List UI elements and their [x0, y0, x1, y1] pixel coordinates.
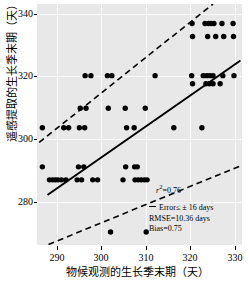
- y-tick-label: 320: [5, 70, 33, 81]
- y-tick-label: 300: [5, 133, 33, 144]
- x-tick-mark: [235, 246, 236, 250]
- y-tick-340: 340: [0, 14, 33, 15]
- data-point: [83, 106, 88, 111]
- data-point: [61, 125, 66, 130]
- x-tick-label: 290: [41, 252, 73, 263]
- data-point: [120, 177, 125, 182]
- plot-panel: r2=0.76 Error≤ ± 16 days RMSE=10.36 days…: [37, 4, 242, 245]
- r-squared-value: =0.76: [162, 186, 181, 195]
- data-point: [213, 34, 218, 39]
- x-tick-label: 330: [219, 252, 249, 263]
- x-tick-mark: [190, 246, 191, 250]
- data-point: [124, 125, 129, 130]
- data-point: [143, 106, 148, 111]
- data-point: [131, 125, 136, 130]
- y-tick-label: 340: [5, 8, 33, 19]
- r-squared-annotation: r2=0.76: [156, 183, 181, 195]
- error-legend-label: Error≤ ± 16 days: [159, 203, 213, 212]
- data-point: [220, 73, 225, 78]
- data-point: [81, 164, 86, 169]
- data-point: [77, 125, 82, 130]
- error-legend-row: Error≤ ± 16 days: [149, 203, 213, 214]
- x-axis-label: 物候观测的生长季末期（天）: [37, 263, 237, 279]
- data-point: [231, 73, 236, 78]
- data-point: [95, 177, 100, 182]
- x-tick-330: 330: [235, 245, 236, 246]
- data-point: [217, 81, 222, 86]
- data-point: [210, 81, 215, 86]
- data-point: [211, 21, 216, 26]
- data-point: [205, 34, 210, 39]
- data-point: [108, 229, 113, 234]
- x-tick-300: 300: [101, 245, 102, 246]
- upper-error-bound-line: [39, 4, 213, 142]
- data-point: [78, 106, 83, 111]
- data-point: [152, 73, 157, 78]
- data-point: [109, 73, 114, 78]
- x-tick-310: 310: [146, 245, 147, 246]
- bias-label: Bias=0.75: [149, 224, 213, 235]
- data-point: [66, 125, 71, 130]
- data-point: [82, 73, 87, 78]
- statistics-legend: Error≤ ± 16 days RMSE=10.36 days Bias=0.…: [149, 203, 213, 235]
- data-point: [90, 177, 95, 182]
- data-point: [210, 73, 215, 78]
- scatter-plot-figure: 遥感提取的生长季末期（天） 340 320 300 280 290 300 31…: [0, 0, 249, 283]
- data-point: [79, 177, 84, 182]
- data-point: [189, 21, 194, 26]
- data-point: [88, 73, 93, 78]
- dashed-line-icon: [149, 206, 156, 207]
- x-tick-mark: [57, 246, 58, 250]
- data-point: [190, 34, 195, 39]
- data-point: [221, 34, 226, 39]
- y-tick-320: 320: [0, 76, 33, 77]
- x-tick-290: 290: [57, 245, 58, 246]
- data-point: [135, 164, 140, 169]
- data-point: [199, 125, 204, 130]
- x-tick-label: 320: [174, 252, 206, 263]
- data-point: [230, 21, 235, 26]
- data-point: [144, 177, 149, 182]
- data-point: [231, 34, 236, 39]
- x-tick-label: 310: [130, 252, 162, 263]
- data-point: [82, 125, 87, 130]
- data-point: [106, 106, 111, 111]
- data-point: [190, 81, 195, 86]
- x-tick-label: 300: [85, 252, 117, 263]
- x-tick-mark: [101, 246, 102, 250]
- y-tick-label: 280: [5, 196, 33, 207]
- data-point: [123, 164, 128, 169]
- data-point: [63, 177, 68, 182]
- y-tick-300: 300: [0, 139, 33, 140]
- data-point: [40, 164, 45, 169]
- rmse-label: RMSE=10.36 days: [149, 214, 213, 225]
- data-point: [76, 164, 81, 169]
- x-tick-320: 320: [190, 245, 191, 246]
- data-point: [123, 106, 128, 111]
- x-tick-mark: [146, 246, 147, 250]
- data-point: [189, 73, 194, 78]
- data-point: [171, 125, 176, 130]
- y-tick-280: 280: [0, 202, 33, 203]
- data-point: [219, 21, 224, 26]
- data-point: [40, 125, 45, 130]
